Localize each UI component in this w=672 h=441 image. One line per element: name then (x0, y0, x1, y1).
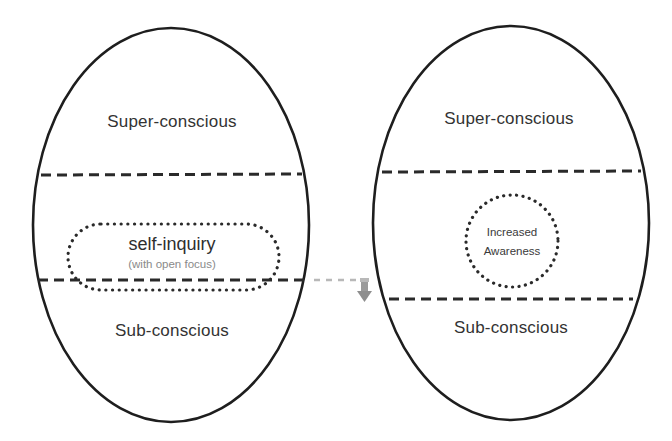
right-sub-conscious-label: Sub-conscious (454, 318, 568, 338)
right-super-conscious-label: Super-conscious (444, 109, 574, 129)
left-mind-ellipse (33, 28, 309, 422)
left-upper-boundary (41, 174, 302, 175)
self-inquiry-label: self-inquiry (128, 234, 215, 255)
transition-arrow-icon (314, 278, 372, 302)
awareness-label: Awareness (484, 242, 541, 261)
right-upper-boundary (382, 171, 641, 172)
increased-label: Increased (487, 223, 538, 242)
left-sub-conscious-label: Sub-conscious (115, 321, 229, 341)
open-focus-label: (with open focus) (128, 258, 216, 270)
left-super-conscious-label: Super-conscious (107, 112, 237, 132)
diagram-canvas (0, 0, 672, 441)
